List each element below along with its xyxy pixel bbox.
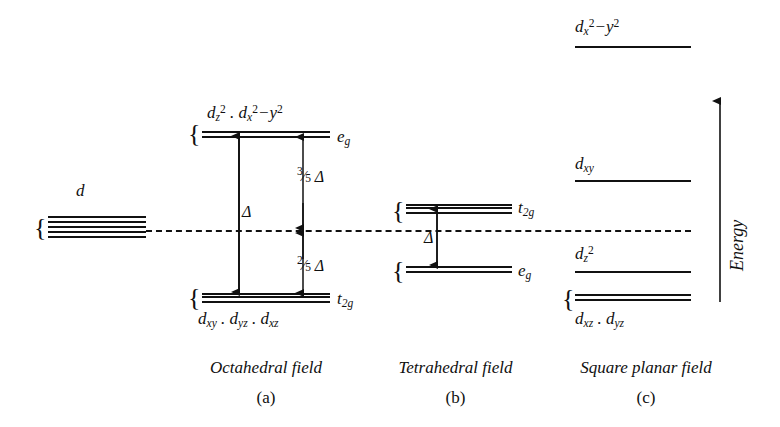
- octahedral-lower-shift-label: 2⁄5 Δ: [297, 256, 324, 275]
- octahedral-upper-shift-label: 3⁄5 Δ: [297, 167, 324, 186]
- octahedral-eg-term-label: eg: [337, 128, 350, 148]
- panel-key-a: (a): [186, 388, 346, 408]
- tetrahedral-delta-label: Δ: [424, 230, 433, 246]
- free-ion-d-levels: [48, 216, 146, 241]
- caption-square-planar: Square planar field: [556, 358, 736, 378]
- square-planar-dxz-dyz-label: dxz . dyz: [575, 310, 624, 330]
- free-ion-brace: {: [34, 215, 46, 241]
- square-planar-dxy-label: dxy: [575, 155, 594, 175]
- tetrahedral-eg-term-label: eg: [518, 262, 531, 282]
- d-level-line: [48, 231, 146, 233]
- square-planar-dxy-level: [575, 180, 691, 182]
- tetrahedral-t2g-level: [406, 204, 512, 214]
- octahedral-total-delta-label: Δ: [242, 204, 251, 220]
- free-ion-d-label: d: [76, 182, 85, 199]
- d-level-line: [48, 226, 146, 228]
- square-planar-dx2y2-level: [575, 46, 691, 48]
- tetrahedral-eg-level: [406, 266, 512, 273]
- d-level-line: [48, 236, 146, 238]
- tetrahedral-eg-brace: {: [392, 258, 404, 284]
- energy-axis-arrow: [712, 96, 728, 304]
- square-planar-dxz-dyz-brace: {: [562, 286, 574, 312]
- octahedral-t2g-orbitals-label: dxy . dyz . dxz: [198, 310, 279, 330]
- square-planar-dxz-dyz-level: [575, 294, 691, 301]
- octahedral-t2g-brace: {: [188, 285, 200, 311]
- square-planar-dz2-level: [575, 271, 691, 273]
- square-planar-dx2y2-label: dx2−y2: [575, 18, 619, 38]
- caption-tetrahedral: Tetrahedral field: [378, 358, 533, 378]
- tetrahedral-t2g-brace: {: [392, 198, 404, 224]
- square-planar-dz2-label: dz2: [575, 245, 594, 265]
- caption-octahedral: Octahedral field: [186, 358, 346, 378]
- d-level-line: [48, 216, 146, 218]
- crystal-field-splitting-figure: d { { dz2 . dx2−y2 eg { dxy . dyz . dxz …: [0, 0, 780, 427]
- d-level-line: [48, 221, 146, 223]
- panel-key-b: (b): [378, 388, 533, 408]
- panel-key-c: (c): [556, 388, 736, 408]
- octahedral-eg-orbitals-label: dz2 . dx2−y2: [207, 104, 283, 124]
- octahedral-t2g-term-label: t2g: [337, 290, 353, 310]
- energy-axis-label: Energy: [727, 220, 748, 271]
- octahedral-eg-brace: {: [188, 121, 200, 147]
- tetrahedral-t2g-term-label: t2g: [518, 199, 534, 219]
